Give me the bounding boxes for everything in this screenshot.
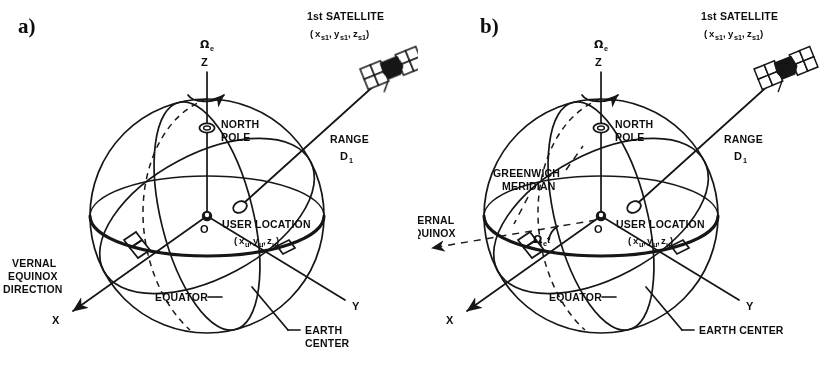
axis-label-z-a: Z (201, 56, 208, 68)
svg-text:): ) (760, 28, 763, 39)
axis-label-y-a: Y (352, 300, 360, 312)
axis-label-y-b: Y (746, 300, 754, 312)
range-label-b: RANGE (724, 133, 763, 145)
user-location-label-a: USER LOCATION (222, 218, 311, 230)
greenwich-label-line2: MERIDIAN (502, 180, 556, 192)
spin-rate-symbol-b: Ω (594, 38, 604, 51)
svg-text:,: , (329, 28, 332, 39)
greenwich-leader-upper (566, 146, 583, 170)
svg-text:): ) (670, 235, 673, 246)
vernal-label-line1-a: VERNAL (12, 257, 57, 269)
svg-text:,: , (348, 28, 351, 39)
svg-text:(: ( (234, 235, 238, 246)
range-label-a: RANGE (330, 133, 369, 145)
satellite-label-a: 1st SATELLITE (307, 10, 384, 22)
diagram-panel-b: b) Ω e Z X (418, 0, 836, 381)
vernal-label-line2-a: EQUINOX (8, 270, 58, 282)
svg-text:Ω: Ω (533, 233, 543, 246)
svg-text:,: , (657, 235, 660, 246)
svg-text:1: 1 (743, 156, 747, 165)
greenwich-leader-lower (514, 197, 528, 224)
range-distance-b: D1 (734, 150, 747, 165)
vernal-label-line3-a: DIRECTION (3, 283, 63, 295)
satellite-coords-b: ( xs1 , ys1 , zs1 ) (704, 28, 763, 42)
axis-label-x-b: X (446, 314, 454, 326)
north-pole-label-line1: NORTH (221, 118, 259, 130)
north-pole-label-line2: POLE (221, 131, 250, 143)
svg-text:(: ( (310, 28, 314, 39)
earth-center-highlight-b (599, 213, 603, 217)
svg-text:): ) (366, 28, 369, 39)
earth-center-leader-a (252, 287, 288, 330)
earth-center-leader-b (646, 287, 682, 330)
panel-b-canvas: b) Ω e Z X (418, 0, 836, 381)
svg-text:,: , (249, 235, 252, 246)
axis-label-x-a: X (52, 314, 60, 326)
satellite-icon-b (754, 47, 821, 97)
svg-text:D: D (734, 150, 742, 162)
panel-tag-a: a) (18, 14, 36, 38)
svg-text:,: , (263, 235, 266, 246)
satellite-icon-a (360, 47, 418, 97)
north-pole-label-line1-b: NORTH (615, 118, 653, 130)
svg-text:D: D (340, 150, 348, 162)
earth-center-label-line2-a: CENTER (305, 337, 350, 349)
earth-center-label-line1-a: EARTH (305, 324, 342, 336)
spin-rate-subscript-b: e (604, 44, 608, 53)
svg-text:s1: s1 (358, 33, 366, 42)
equator-label-a: EQUATOR (155, 291, 208, 303)
svg-text:s1: s1 (734, 33, 742, 42)
earth-center-label-b: EARTH CENTER (699, 324, 784, 336)
panel-a-canvas: a) Ω e (0, 0, 418, 381)
vernal-label-line1-b: VERNAL (418, 214, 455, 226)
svg-text:s1: s1 (340, 33, 348, 42)
user-location-label-b: USER LOCATION (616, 218, 705, 230)
north-pole-marker (199, 123, 214, 132)
spin-rate-symbol-a: Ω (200, 38, 210, 51)
north-pole-label-line2-b: POLE (615, 131, 644, 143)
spin-rate-subscript-a: e (210, 44, 214, 53)
figure-root: a) Ω e (0, 0, 836, 381)
svg-text:,: , (643, 235, 646, 246)
rotation-angle-label: Ω e t (533, 233, 551, 248)
range-distance-a: D1 (340, 150, 353, 165)
origin-label-a: O (200, 223, 209, 235)
equator-label-b: EQUATOR (549, 291, 602, 303)
satellite-label-b: 1st SATELLITE (701, 10, 778, 22)
earth-center-highlight (205, 213, 209, 217)
vernal-label-line2-b: EQUINOX (418, 227, 456, 239)
svg-text:,: , (723, 28, 726, 39)
north-pole-marker-b (593, 123, 608, 132)
greenwich-label-line1: GREENWICH (493, 167, 560, 179)
axis-label-z-b: Z (595, 56, 602, 68)
svg-text:s1: s1 (752, 33, 760, 42)
svg-text:): ) (276, 235, 279, 246)
origin-label-b: O (594, 223, 603, 235)
svg-text:s1: s1 (715, 33, 723, 42)
svg-text:(: ( (704, 28, 708, 39)
satellite-coords-a: ( xs1 , ys1 , zs1 ) (310, 28, 369, 42)
svg-text:s1: s1 (321, 33, 329, 42)
panel-tag-b: b) (480, 14, 499, 38)
diagram-panel-a: a) Ω e (0, 0, 418, 381)
svg-text:,: , (742, 28, 745, 39)
svg-text:(: ( (628, 235, 632, 246)
svg-text:1: 1 (349, 156, 353, 165)
